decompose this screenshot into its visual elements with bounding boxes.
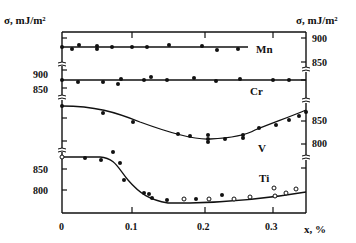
x-tick-label: 0.1: [125, 221, 138, 232]
break-icon: [58, 62, 66, 66]
x-tick-label: 0.2: [197, 221, 210, 232]
cr-series-label: Cr: [250, 85, 263, 97]
right-tick-label: 850: [312, 115, 327, 126]
break-icon: [58, 95, 66, 99]
axes-frame: [62, 32, 306, 213]
chart-canvas: σ, mJ/m² σ, mJ/m² x, % 900 850 850 800 9…: [0, 0, 356, 243]
left-tick-label: 850: [33, 164, 48, 175]
left-tick-label: 900: [33, 69, 48, 80]
right-axis-title: σ, mJ/m²: [296, 14, 338, 26]
break-icon: [302, 67, 310, 71]
left-tick-label: 800: [33, 185, 48, 196]
x-tick-label: 0.3: [265, 221, 278, 232]
x-axis-title: x, %: [304, 223, 326, 235]
ti-trend-curve: [62, 157, 306, 203]
v-trend-curve: [62, 106, 306, 139]
break-icon: [302, 155, 310, 159]
right-tick-label: 900: [312, 33, 327, 44]
right-tick-label: 800: [312, 138, 327, 149]
mn-series-label: Mn: [256, 43, 273, 55]
x-tick-label: 0: [59, 221, 64, 232]
ticks: [62, 32, 306, 213]
ti-series-label: Ti: [259, 172, 269, 184]
break-icon: [302, 98, 310, 102]
left-tick-label: 850: [33, 84, 48, 95]
v-series-label: V: [258, 142, 266, 154]
right-tick-label: 850: [312, 57, 327, 68]
break-icon: [58, 148, 66, 152]
left-axis-title: σ, mJ/m²: [4, 14, 46, 26]
axis-break-marks: [58, 62, 310, 159]
